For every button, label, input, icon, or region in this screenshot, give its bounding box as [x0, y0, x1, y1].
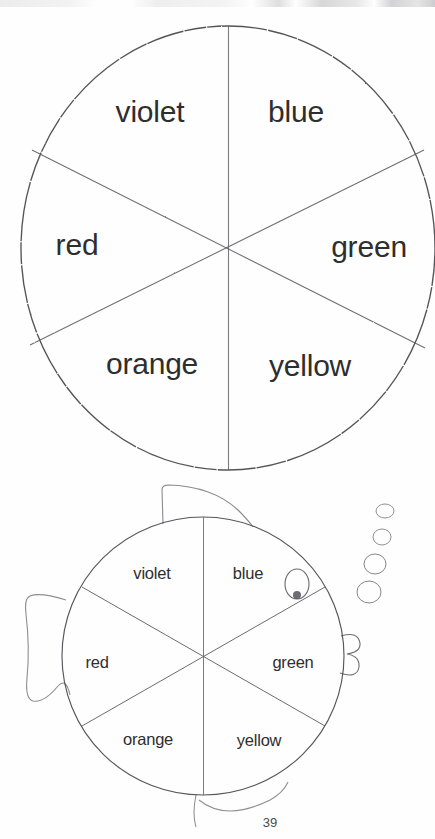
- wheel-sector-label-yellow: yellow: [269, 349, 351, 383]
- fish-sector-label-violet: violet: [133, 564, 170, 583]
- bubble-3: [364, 554, 386, 574]
- fish-sector-label-red: red: [85, 653, 108, 672]
- line-art-layer: [0, 0, 435, 839]
- dorsal-fin: [162, 485, 253, 527]
- wheel-sector-label-orange: orange: [106, 347, 198, 381]
- bubble-1: [376, 504, 394, 518]
- fish-sector-label-orange: orange: [123, 730, 173, 749]
- wheel-sector-label-red: red: [56, 228, 99, 262]
- fish-sector-label-yellow: yellow: [237, 731, 282, 750]
- wheel-sector-label-violet: violet: [116, 95, 185, 129]
- fish-sector-label-blue: blue: [233, 564, 263, 583]
- bubble-4: [357, 581, 381, 603]
- wheel-sector-label-green: green: [331, 230, 407, 264]
- tail-fin: [26, 595, 71, 702]
- fish-sector-label-green: green: [272, 653, 313, 672]
- eye-pupil: [293, 591, 301, 599]
- fish-graphic: [26, 485, 395, 827]
- bubble-2: [373, 529, 391, 545]
- wheel-sector-label-blue: blue: [268, 95, 324, 129]
- bubble-group: [357, 504, 394, 603]
- page-number: 39: [263, 815, 277, 830]
- worksheet-page: violet blue green yellow orange red viol…: [0, 0, 435, 839]
